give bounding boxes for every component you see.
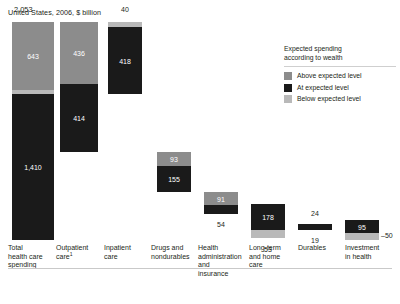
axis-line: Drugs and [151,244,201,253]
axis-line: administration [198,253,250,262]
segment-label-at: 155 [157,176,191,183]
axis-line: Durables [298,244,344,253]
x-axis-label-health-admin: Health administration and insurance [198,244,250,278]
bar-column-drugs[interactable]: 93 155 [157,152,191,192]
segment-label-below: –50 [381,232,393,239]
segment-label-at: 414 [60,115,98,122]
segment-at-expected[interactable]: 414 [60,84,98,152]
segment-label-at: 19 [298,237,332,244]
bar-column-durables[interactable]: 24 19 [298,224,332,230]
segment-label-below: 40 [108,6,142,13]
bottom-divider [8,268,392,269]
bar-column-outpatient[interactable]: 436 414 [60,22,98,152]
segment-label-at: 54 [204,221,238,228]
segment-label-above: 24 [298,210,332,217]
segment-label-at: 418 [108,57,142,64]
legend-item-at[interactable]: At expected level [284,84,396,92]
legend-swatch-below-icon [284,95,292,103]
segment-below-expected[interactable] [345,233,379,240]
legend-swatch-above-icon [284,72,292,80]
axis-line: health care [8,253,56,262]
legend-label-below: Below expected level [297,95,361,103]
segment-at-expected[interactable]: 95 [345,220,379,233]
axis-line: Investment [345,244,395,253]
axis-line: insurance [198,270,250,279]
x-axis-label-outpatient: Outpatient care1 [56,244,104,261]
legend-swatch-at-icon [284,84,292,92]
segment-label-at: 1,410 [12,164,54,171]
segment-label-above: 643 [12,53,54,60]
segment-above-expected[interactable]: 93 [157,152,191,166]
segment-at-expected[interactable]: 155 [157,166,191,192]
axis-line: Inpatient [104,244,150,253]
segment-above-expected[interactable]: 643 [12,22,54,90]
axis-line: Health [198,244,250,253]
legend-label-at: At expected level [297,84,349,92]
legend-title-line2: according to wealth [284,53,396,62]
segment-at-expected[interactable]: 1,410 [12,94,54,240]
x-axis-labels: Total health care spending Outpatient ca… [0,244,400,302]
axis-line: Long-term [249,244,297,253]
segment-label-at: 95 [345,223,379,230]
segment-at-expected[interactable]: 418 [108,27,142,94]
bar-column-investment[interactable]: 95 –50 [345,220,379,240]
x-axis-label-longterm: Long-term and home care [249,244,297,270]
segment-at-expected[interactable] [204,205,238,214]
axis-line: in health [345,253,395,262]
chart-root: United States, 2006, $ billion 2,053 643… [0,0,400,304]
bar-column-total[interactable]: 2,053 643 1,410 [12,22,54,240]
axis-line: nondurables [151,253,201,262]
axis-line-text: care [56,253,70,260]
segment-label-above: 91 [204,195,238,202]
segment-label-above: 93 [157,156,191,163]
x-axis-label-drugs: Drugs and nondurables [151,244,201,261]
bar-column-inpatient[interactable]: 40 418 [108,22,142,94]
axis-line: Outpatient [56,244,104,253]
legend: Expected spending according to wealth Ab… [284,44,396,107]
segment-at-expected[interactable]: 178 [251,204,285,230]
total-value-label: 2,053 [14,6,33,13]
footnote-marker: 1 [70,250,73,256]
axis-line: care [104,253,150,262]
x-axis-label-investment: Investment in health [345,244,395,261]
segment-below-expected[interactable] [251,230,285,238]
bar-column-health-admin[interactable]: 91 54 [204,192,238,214]
x-axis-label-inpatient: Inpatient care [104,244,150,261]
legend-item-below[interactable]: Below expected level [284,95,396,103]
segment-above-expected[interactable]: 91 [204,192,238,205]
segment-above-expected[interactable]: 436 [60,22,98,84]
x-axis-label-total: Total health care spending [8,244,56,270]
legend-label-above: Above expected level [297,72,362,80]
axis-line: Total [8,244,56,253]
segment-at-expected[interactable] [298,224,332,230]
axis-line: and home [249,253,297,262]
axis-line-with-footnote: care1 [56,253,104,262]
legend-item-above[interactable]: Above expected level [284,72,396,80]
segment-label-above: 436 [60,50,98,57]
segment-label-at: 178 [251,214,285,221]
legend-title-line1: Expected spending [284,44,396,53]
bar-column-longterm[interactable]: 178 53 [251,204,285,238]
legend-divider [284,66,396,67]
x-axis-label-durables: Durables [298,244,344,253]
